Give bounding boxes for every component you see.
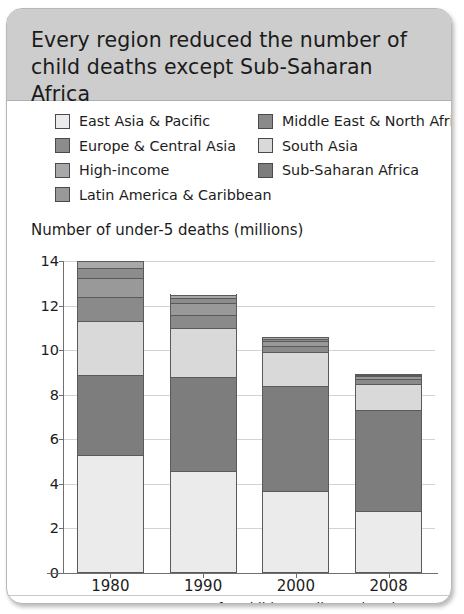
- legend-column-right: Middle East & North AfricaSouth AsiaSub-…: [258, 109, 452, 183]
- legend-item[interactable]: South Asia: [258, 134, 452, 159]
- bar-segment[interactable]: [77, 375, 144, 455]
- y-axis-title: Number of under-5 deaths (millions): [31, 221, 303, 239]
- legend-item[interactable]: Sub-Saharan Africa: [258, 158, 452, 183]
- y-axis-tick-label: 2: [7, 520, 59, 536]
- legend-item-label: Middle East & North Africa: [282, 113, 452, 129]
- legend-item-label: High-income: [79, 162, 169, 178]
- legend-item-label: Latin America & Caribbean: [79, 187, 271, 203]
- bar-segment[interactable]: [77, 321, 144, 374]
- bar-stack[interactable]: [262, 337, 329, 573]
- legend-swatch-icon: [258, 138, 273, 153]
- bar-segment[interactable]: [355, 410, 422, 510]
- legend-column-left: East Asia & PacificEurope & Central Asia…: [55, 109, 271, 207]
- legend-item-label: Europe & Central Asia: [79, 138, 236, 154]
- bar-segment[interactable]: [355, 384, 422, 411]
- bar-stack[interactable]: [355, 374, 422, 573]
- bar-segment[interactable]: [262, 386, 329, 491]
- bar-segment[interactable]: [170, 377, 237, 471]
- y-axis-tick-label: 6: [7, 431, 59, 447]
- bar-stack[interactable]: [170, 295, 237, 574]
- bar-segment[interactable]: [355, 511, 422, 573]
- legend-item[interactable]: Latin America & Caribbean: [55, 183, 271, 208]
- x-axis-line: [47, 573, 438, 574]
- footer-divider: [7, 595, 451, 596]
- bar-segment[interactable]: [170, 303, 237, 314]
- bar-segment[interactable]: [77, 261, 144, 268]
- legend-item[interactable]: East Asia & Pacific: [55, 109, 271, 134]
- legend-item[interactable]: High-income: [55, 158, 271, 183]
- source-note: Source: Inter-agency Group for Child Mor…: [31, 601, 412, 604]
- bar-segment[interactable]: [262, 346, 329, 353]
- bar-stack[interactable]: [77, 261, 144, 573]
- bar-segment[interactable]: [262, 352, 329, 385]
- x-axis-tick-mark: [110, 573, 111, 578]
- x-axis-tick-label: 1980: [65, 577, 155, 595]
- y-axis-tick-label: 14: [7, 253, 59, 269]
- legend-item-label: Sub-Saharan Africa: [282, 162, 419, 178]
- plot-area: [64, 261, 435, 573]
- bar-segment[interactable]: [170, 471, 237, 574]
- y-axis-ticks: 14121086420: [7, 9, 59, 604]
- bar-segment[interactable]: [170, 315, 237, 328]
- bar-segment[interactable]: [77, 278, 144, 297]
- x-axis-tick-label: 1990: [158, 577, 248, 595]
- x-axis-tick-label: 2000: [251, 577, 341, 595]
- legend-item[interactable]: Europe & Central Asia: [55, 134, 271, 159]
- legend-swatch-icon: [258, 114, 273, 129]
- bar-segment[interactable]: [77, 297, 144, 322]
- bar-segment[interactable]: [262, 491, 329, 573]
- legend-item[interactable]: Middle East & North Africa: [258, 109, 452, 134]
- legend-swatch-icon: [258, 163, 273, 178]
- chart-card: Every region reduced the number of child…: [6, 8, 452, 604]
- page-title: Every region reduced the number of child…: [31, 27, 435, 108]
- legend-item-label: East Asia & Pacific: [79, 113, 210, 129]
- x-axis-tick-mark: [389, 573, 390, 578]
- card-header: Every region reduced the number of child…: [7, 9, 451, 101]
- x-axis-tick-mark: [296, 573, 297, 578]
- x-axis-tick-mark: [203, 573, 204, 578]
- bar-segment[interactable]: [77, 455, 144, 573]
- y-axis-tick-label: 10: [7, 342, 59, 358]
- bar-segment[interactable]: [170, 328, 237, 377]
- y-axis-tick-label: 4: [7, 476, 59, 492]
- y-axis-tick-label: 12: [7, 298, 59, 314]
- bar-segment[interactable]: [77, 268, 144, 278]
- legend-item-label: South Asia: [282, 138, 358, 154]
- screenshot-root: Every region reduced the number of child…: [0, 0, 464, 614]
- y-axis-tick-label: 8: [7, 387, 59, 403]
- x-axis-tick-label: 2008: [344, 577, 434, 595]
